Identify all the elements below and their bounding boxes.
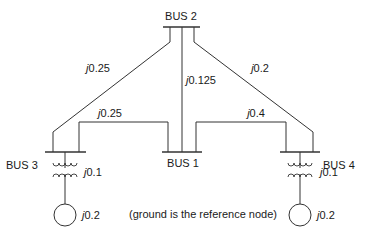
bus-3-generator-impedance: j0.2 (80, 209, 100, 221)
line-bus1-bus4-impedance: j0.4 (245, 107, 265, 119)
line-bus2-bus4-impedance: j0.2 (249, 62, 269, 74)
bus-4-generator: j0.2 (289, 204, 335, 226)
bus-3-transformer: j0.1 (53, 152, 102, 204)
bus-4-transformer-impedance: j0.1 (318, 166, 338, 178)
bus-3-label: BUS 3 (6, 159, 38, 171)
bus-2: BUS 2 (163, 10, 200, 27)
line-bus3-bus1-impedance: j0.25 (96, 107, 122, 119)
bus-1-label: BUS 1 (167, 157, 199, 169)
bus-1: BUS 1 (162, 152, 202, 169)
power-system-one-line-diagram: BUS 2 j0.25 j0.125 j0.2 BUS 3 j0.25 BUS … (0, 0, 366, 238)
bus-3-transformer-impedance: j0.1 (82, 166, 102, 178)
line-bus2-bus4: j0.2 (194, 27, 313, 152)
line-bus2-bus1-impedance: j0.125 (184, 74, 216, 86)
bus-2-label: BUS 2 (165, 10, 197, 22)
bus-4: BUS 4 (280, 152, 355, 171)
bus-4-generator-impedance: j0.2 (315, 209, 335, 221)
generator-icon (289, 204, 311, 226)
line-bus3-bus1: j0.25 (79, 107, 168, 152)
reference-note: (ground is the reference node) (129, 208, 277, 220)
line-bus2-bus3: j0.25 (53, 27, 170, 152)
generator-icon (54, 204, 76, 226)
bus-3-generator: j0.2 (54, 204, 100, 226)
bus-3: BUS 3 (6, 152, 86, 171)
line-bus2-bus3-impedance: j0.25 (84, 62, 110, 74)
line-bus1-bus4: j0.4 (196, 107, 286, 152)
